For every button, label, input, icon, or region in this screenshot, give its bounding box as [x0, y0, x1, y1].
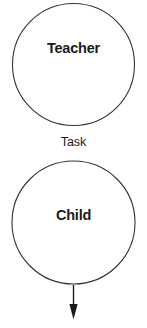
teacher-node-label: Teacher	[0, 41, 147, 56]
child-output-arrow	[69, 285, 77, 320]
child-node-label: Child	[0, 208, 147, 223]
teacher-node-circle[interactable]	[13, 4, 135, 126]
child-output-arrow-head	[69, 304, 77, 320]
task-edge-label: Task	[0, 136, 147, 149]
